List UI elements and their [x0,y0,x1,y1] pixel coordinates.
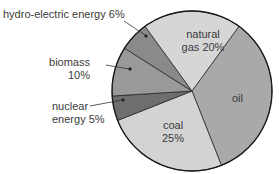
label-biomass-line2: 10% [40,69,90,82]
label-nuclear-line1: nuclear [52,100,105,113]
biomass-leader-dot [129,68,132,71]
label-nuclear: nuclear energy 5% [52,100,105,126]
label-oil: oil [232,92,243,105]
label-coal-line1: coal [158,119,188,132]
label-biomass: biomass 10% [40,56,90,82]
label-coal: coal 25% [158,119,188,145]
label-natural-gas: natural gas 20% [178,28,228,54]
pie-chart [0,0,279,174]
label-coal-line2: 25% [158,132,188,145]
label-nuclear-line2: energy 5% [52,113,105,126]
label-natural-gas-line2: gas 20% [178,41,228,54]
hydro-leader-dot [145,35,148,38]
nuclear-leader-dot [122,99,125,102]
label-biomass-line1: biomass [40,56,90,69]
label-natural-gas-line1: natural [178,28,228,41]
label-hydro: hydro-electric energy 6% [3,8,125,21]
